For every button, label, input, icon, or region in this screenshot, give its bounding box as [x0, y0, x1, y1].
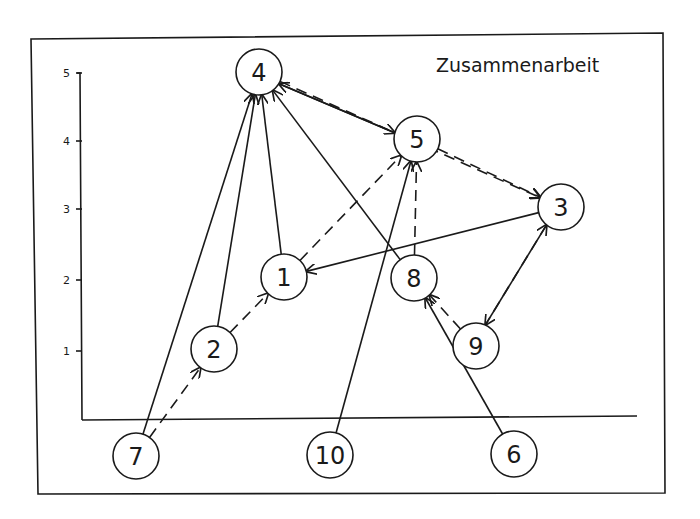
y-axis	[77, 73, 82, 420]
edge-1-to-5	[300, 156, 401, 261]
node-label: 5	[409, 126, 424, 154]
edge-5-to-4	[279, 84, 395, 133]
y-tick-label: 1	[63, 345, 70, 358]
y-tick-label: 4	[63, 135, 70, 148]
edge-5-to-3	[438, 149, 540, 197]
diagram-title: Zusammenarbeit	[436, 54, 599, 76]
node-1: 1	[261, 254, 307, 300]
node-label: 7	[128, 443, 143, 471]
edge-2-to-4	[218, 95, 256, 327]
edge-1-to-4	[262, 95, 281, 254]
node-label: 4	[251, 59, 266, 87]
y-tick-label: 5	[63, 67, 70, 80]
edge-8-to-4	[273, 90, 400, 259]
node-5: 5	[394, 116, 440, 162]
node-label: 1	[276, 264, 291, 292]
edges	[143, 81, 546, 437]
node-6: 6	[491, 431, 537, 477]
node-3: 3	[538, 184, 584, 230]
node-4: 4	[236, 49, 282, 95]
node-7: 7	[113, 433, 159, 479]
node-10: 10	[307, 432, 353, 478]
node-label: 6	[506, 441, 521, 469]
node-label: 9	[468, 333, 483, 361]
node-8: 8	[391, 255, 437, 301]
node-label: 8	[406, 265, 421, 293]
sociogram-diagram: 54321 Zusammenarbeit 45318297106	[0, 0, 700, 519]
edge-7-to-2	[150, 368, 201, 438]
y-tick-label: 3	[63, 203, 70, 216]
node-label: 2	[206, 336, 221, 364]
node-label: 3	[553, 194, 568, 222]
edge-8-to-5	[414, 162, 416, 255]
y-tick-label: 2	[63, 274, 70, 287]
outer-frame	[31, 33, 665, 494]
node-9: 9	[453, 323, 499, 369]
edge-2-to-1	[230, 293, 268, 332]
node-label: 10	[315, 442, 346, 470]
node-2: 2	[191, 326, 237, 372]
y-axis-ticks: 54321	[63, 67, 82, 358]
edge-7-to-4	[143, 94, 252, 434]
edge-9-to-3	[485, 225, 546, 325]
